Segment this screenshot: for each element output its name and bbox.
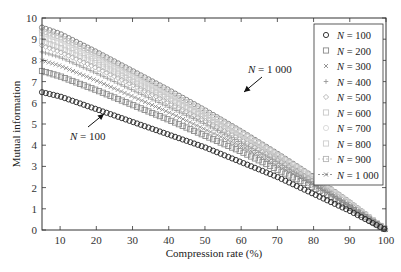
x-tick-label: 50	[199, 234, 211, 246]
y-tick-label: 9	[32, 33, 38, 45]
data-point	[210, 137, 215, 142]
mutual-information-chart: 102030405060708090100012345678910 Compre…	[0, 0, 401, 272]
legend-label: N = 1 000	[336, 170, 379, 181]
data-point	[191, 128, 196, 133]
data-point	[146, 109, 151, 114]
data-point	[74, 80, 79, 85]
data-point	[150, 110, 155, 115]
legend-label: N = 200	[336, 46, 371, 57]
data-point	[172, 120, 177, 125]
legend-label: N = 600	[336, 108, 371, 119]
data-point	[108, 93, 113, 98]
data-point	[131, 103, 136, 108]
data-point	[157, 114, 162, 119]
data-point	[203, 133, 208, 138]
data-point	[169, 118, 174, 123]
data-point	[127, 101, 132, 106]
legend-label: N = 100	[336, 30, 371, 41]
data-point	[188, 127, 193, 132]
data-point	[199, 132, 204, 137]
data-point	[195, 130, 200, 135]
legend-label: N = 300	[336, 61, 371, 72]
data-point	[47, 60, 51, 64]
data-point	[165, 117, 170, 122]
annotation-label: N = 1 000	[247, 63, 292, 75]
data-point	[226, 143, 231, 148]
data-point	[85, 84, 90, 89]
data-point	[62, 75, 67, 80]
x-tick-label: 30	[127, 234, 139, 246]
data-point	[138, 106, 143, 111]
data-point	[81, 83, 86, 88]
data-point	[134, 104, 139, 109]
data-point	[230, 145, 235, 150]
data-point	[176, 122, 181, 127]
data-point	[89, 86, 94, 91]
legend-label: N = 500	[336, 92, 371, 103]
y-tick-label: 7	[32, 76, 38, 88]
annotation-arrowhead	[97, 114, 104, 120]
annotation-label: N = 100	[69, 130, 106, 142]
data-point	[249, 154, 254, 159]
legend: N = 100N = 200N = 300N = 400N = 500N = 6…	[314, 24, 383, 185]
x-tick-label: 90	[344, 234, 356, 246]
x-axis-title: Compression rate (%)	[166, 247, 263, 260]
data-point	[66, 77, 71, 82]
x-tick-label: 70	[272, 234, 284, 246]
data-point	[93, 87, 98, 92]
data-point	[252, 156, 257, 161]
data-point	[53, 54, 58, 59]
y-tick-label: 10	[26, 12, 38, 24]
data-point	[115, 96, 120, 101]
data-point	[222, 142, 227, 147]
data-point	[161, 115, 166, 120]
y-tick-label: 8	[32, 54, 38, 66]
y-tick-label: 5	[32, 118, 38, 130]
legend-label: N = 900	[336, 154, 371, 165]
y-tick-label: 2	[32, 182, 38, 194]
y-tick-label: 6	[32, 97, 38, 109]
data-point	[100, 90, 105, 95]
data-point	[112, 95, 117, 100]
legend-label: N = 700	[336, 123, 371, 134]
x-tick-label: 20	[91, 234, 103, 246]
data-point	[207, 135, 212, 140]
data-point	[153, 112, 158, 117]
data-point	[218, 140, 223, 145]
data-point	[70, 78, 75, 83]
data-point	[233, 147, 238, 152]
y-tick-label: 4	[32, 139, 38, 151]
x-tick-label: 80	[308, 234, 320, 246]
x-tick-label: 40	[163, 234, 175, 246]
legend-label: N = 400	[336, 77, 371, 88]
y-tick-label: 1	[32, 203, 38, 215]
data-point	[57, 63, 61, 67]
data-point	[245, 152, 250, 157]
data-point	[104, 92, 109, 97]
data-point	[96, 89, 101, 94]
y-tick-label: 0	[32, 224, 38, 236]
data-point	[54, 62, 58, 66]
legend-label: N = 800	[336, 139, 371, 150]
data-point	[119, 98, 124, 103]
y-tick-label: 3	[32, 160, 38, 172]
x-tick-label: 10	[55, 234, 67, 246]
data-point	[123, 100, 128, 105]
data-point	[50, 61, 54, 65]
x-tick-label: 100	[378, 234, 395, 246]
data-point	[47, 52, 52, 57]
data-point	[180, 123, 185, 128]
data-point	[43, 51, 48, 56]
data-point	[184, 125, 189, 130]
data-point	[50, 53, 55, 58]
data-point	[268, 163, 273, 168]
data-point	[77, 81, 82, 86]
data-point	[237, 148, 242, 153]
x-tick-label: 60	[236, 234, 248, 246]
data-point	[142, 107, 147, 112]
y-axis-title: Mutual information	[10, 80, 22, 167]
data-point	[241, 150, 246, 155]
data-point	[214, 138, 219, 143]
